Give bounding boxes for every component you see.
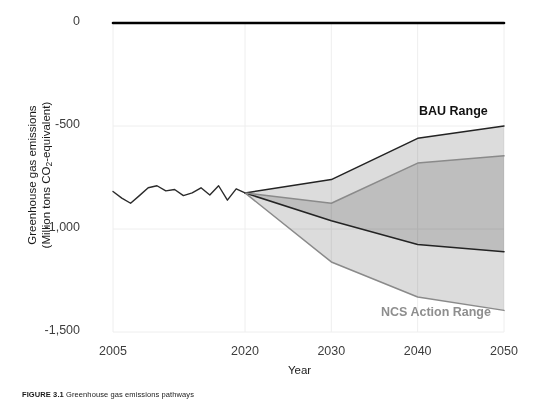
x-axis-title-text: Year <box>288 364 311 376</box>
figure-caption: FIGURE 3.1 Greenhouse gas emissions path… <box>22 390 522 399</box>
figure-caption-body: Greenhouse gas emissions pathways <box>64 390 194 399</box>
figure-root: 0-500-1,000-1,500 20052020203020402050 G… <box>0 0 533 400</box>
x-tick-label: 2005 <box>99 344 127 358</box>
x-axis-title: Year <box>0 364 533 376</box>
y-axis-title-line2-suffix: -equivalent) <box>39 102 51 162</box>
x-tick-2030: 2030 <box>296 341 366 359</box>
series-label-bau-range: BAU Range <box>419 104 488 118</box>
x-tick-2050: 2050 <box>469 341 533 359</box>
x-tick-label: 2030 <box>317 344 345 358</box>
x-tick-label: 2040 <box>404 344 432 358</box>
x-tick-2005: 2005 <box>78 341 148 359</box>
y-tick-label: 0 <box>34 14 80 28</box>
x-tick-label: 2020 <box>231 344 259 358</box>
y-tick-label: -1,500 <box>34 323 80 337</box>
x-tick-label: 2050 <box>490 344 518 358</box>
x-tick-2040: 2040 <box>383 341 453 359</box>
y-axis-title-subscript: 2 <box>44 162 54 167</box>
series-historical-emissions <box>113 186 245 204</box>
y-axis-title-line2: (Million tons CO2-equivalent) <box>39 60 56 290</box>
x-tick-2020: 2020 <box>210 341 280 359</box>
figure-caption-label: FIGURE 3.1 <box>22 390 64 399</box>
y-axis-title-line1: Greenhouse gas emissions <box>26 60 40 290</box>
y-axis-title: Greenhouse gas emissions (Million tons C… <box>26 60 56 290</box>
y-axis-title-line2-prefix: (Million tons CO <box>39 167 51 249</box>
range-band-fills <box>245 126 504 310</box>
chart-plot-area: 0-500-1,000-1,500 20052020203020402050 G… <box>0 0 533 383</box>
series-label-ncs-action-range: NCS Action Range <box>381 305 491 319</box>
